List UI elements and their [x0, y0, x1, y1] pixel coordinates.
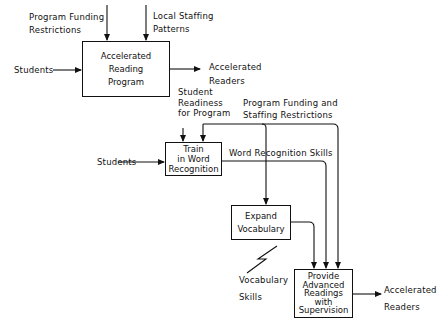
funding-line-provide: [203, 124, 338, 268]
provide-advanced-readings-box: Provide Advanced Readings with Supervisi…: [294, 269, 353, 318]
train-word-recognition-box: Train in Word Recognition: [165, 142, 222, 176]
funding-line-expand: [262, 124, 266, 204]
vocabulary-skills-label: Vocabulary Skills: [239, 276, 288, 302]
box-label: Accelerated Reading Program: [101, 50, 152, 89]
funding-staffing-label: Program Funding and Staffing Restriction…: [243, 98, 338, 121]
word-recognition-label: Word Recognition Skills: [229, 147, 333, 160]
students-label-bottom: Students: [97, 156, 137, 169]
connector-lines: [0, 0, 448, 331]
expand-vocabulary-box: Expand Vocabulary: [231, 205, 291, 240]
students-label: Students: [14, 64, 54, 77]
output-label: Accelerated Readers: [209, 60, 262, 88]
staffing-label: Local Staffing Patterns: [153, 10, 214, 36]
readiness-label: Student Readiness for Program: [178, 87, 230, 119]
accelerated-reading-program-box: Accelerated Reading Program: [82, 41, 170, 97]
box-label: Provide Advanced Readings with Supervisi…: [299, 272, 349, 315]
funding-label: Program Funding Restrictions: [29, 11, 104, 37]
vocabulary-line: [291, 222, 314, 268]
box-label: Expand Vocabulary: [237, 210, 284, 236]
box-label: Train in Word Recognition: [168, 144, 218, 174]
lightning-icon: [247, 246, 277, 273]
output-label-bottom: Accelerated Readers: [384, 282, 437, 316]
